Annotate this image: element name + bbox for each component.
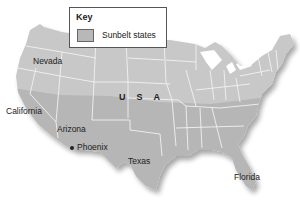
label-california: California bbox=[6, 106, 42, 116]
map-key-legend: Key Sunbelt states bbox=[69, 7, 167, 48]
key-title: Key bbox=[76, 12, 93, 22]
phoenix-city-marker-icon bbox=[70, 146, 74, 150]
label-nevada: Nevada bbox=[33, 56, 62, 66]
label-florida: Florida bbox=[234, 172, 260, 182]
label-country-usa: USA bbox=[119, 92, 171, 102]
sunbelt-swatch-icon bbox=[77, 29, 94, 42]
label-texas: Texas bbox=[128, 156, 150, 166]
key-item-label: Sunbelt states bbox=[102, 30, 156, 40]
label-arizona: Arizona bbox=[57, 124, 86, 134]
label-phoenix: Phoenix bbox=[77, 142, 108, 152]
